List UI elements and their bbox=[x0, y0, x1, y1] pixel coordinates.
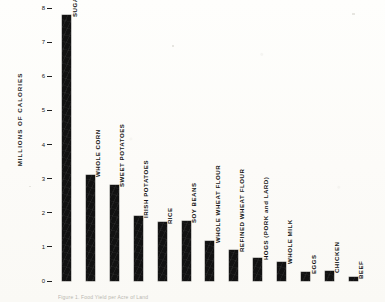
bar bbox=[110, 185, 119, 281]
bar-label: WHOLE WHEAT FLOUR bbox=[215, 165, 221, 243]
y-axis-tick-label: 4 bbox=[42, 141, 45, 149]
y-axis-tick-label: 8 bbox=[42, 4, 45, 12]
y-axis-tick: 3 bbox=[24, 175, 52, 183]
paper-speck bbox=[172, 45, 174, 47]
y-axis-tick: 8 bbox=[24, 4, 52, 12]
bar bbox=[205, 241, 214, 281]
y-axis-tick-mark bbox=[47, 246, 52, 247]
y-axis-tick: 5 bbox=[24, 106, 52, 114]
bar-label: IRISH POTATOES bbox=[143, 160, 149, 218]
y-axis-tick-mark bbox=[47, 76, 52, 77]
y-axis-tick-mark bbox=[47, 212, 52, 213]
y-axis-tick-mark bbox=[47, 144, 52, 145]
paper-speck bbox=[29, 186, 31, 187]
bar-label: CHICKEN bbox=[334, 242, 340, 274]
bar bbox=[134, 216, 143, 281]
y-axis-tick: 1 bbox=[24, 243, 52, 251]
y-axis-tick-mark bbox=[47, 42, 52, 43]
figure-caption: Figure 1. Food Yield per Acre of Land bbox=[58, 294, 378, 302]
bar-label: REFINED WHEAT FLOUR bbox=[239, 169, 245, 252]
bar-label: EGGS bbox=[310, 254, 316, 274]
y-axis-tick-label: 3 bbox=[42, 175, 45, 183]
y-axis-label: MILLIONS OF CALORIES bbox=[16, 55, 23, 185]
bar-label: SOY BEANS bbox=[191, 183, 197, 224]
bar-label: BEEF bbox=[358, 261, 364, 279]
y-axis-tick: 6 bbox=[24, 72, 52, 80]
y-axis-tick-mark bbox=[47, 110, 52, 111]
y-axis-tick: 7 bbox=[24, 38, 52, 46]
paper-speck bbox=[352, 13, 355, 15]
bar-label: HOGS (PORK and LARD) bbox=[263, 177, 269, 260]
y-axis-tick: 0 bbox=[24, 277, 52, 285]
y-axis-tick-label: 0 bbox=[42, 277, 45, 285]
bar bbox=[229, 250, 238, 281]
bar bbox=[301, 272, 310, 281]
bar bbox=[158, 222, 167, 281]
y-axis-tick-mark bbox=[47, 281, 52, 282]
y-axis-tick: 4 bbox=[24, 141, 52, 149]
bar bbox=[62, 15, 71, 281]
bar-label: WHOLE MILK bbox=[287, 220, 293, 265]
y-axis-tick-label: 5 bbox=[42, 106, 45, 114]
y-axis-tick-label: 6 bbox=[42, 72, 45, 80]
y-axis-tick-label: 1 bbox=[42, 243, 45, 251]
y-axis-tick-label: 2 bbox=[42, 209, 45, 217]
y-axis-tick-label: 7 bbox=[42, 38, 45, 46]
y-axis-tick-mark bbox=[47, 8, 52, 9]
bar-chart: MILLIONS OF CALORIES 012345678 SUGARWHOL… bbox=[0, 0, 385, 302]
bar-label: WHOLE CORN bbox=[95, 129, 101, 177]
y-axis-tick-mark bbox=[47, 178, 52, 179]
bar bbox=[253, 258, 262, 281]
bar bbox=[182, 221, 191, 281]
bar bbox=[277, 262, 286, 281]
bar-label: SWEET POTATOES bbox=[119, 124, 125, 188]
y-axis-tick: 2 bbox=[24, 209, 52, 217]
bar-label: SUGAR bbox=[71, 0, 77, 17]
bar bbox=[86, 175, 95, 281]
bar-label: RICE bbox=[167, 208, 173, 225]
